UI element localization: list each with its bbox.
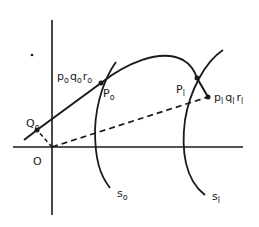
s0-label: so bbox=[117, 187, 128, 202]
s1-label: sl bbox=[212, 190, 220, 205]
s1-curve bbox=[184, 50, 223, 195]
point-P0 bbox=[99, 81, 104, 86]
p1q1r1-label: plqlrl bbox=[214, 91, 243, 106]
stray-dot-mark bbox=[31, 54, 34, 57]
point-P1 bbox=[195, 76, 200, 81]
p0q0r0-label: poqoro bbox=[57, 70, 92, 85]
P1-label: Pl bbox=[176, 83, 185, 98]
origin-label: O bbox=[33, 155, 42, 168]
P0-label: Po bbox=[103, 87, 115, 102]
s0-curve bbox=[95, 62, 116, 188]
point-p1 bbox=[206, 95, 211, 100]
dashed-O-to-Q0 bbox=[37, 130, 52, 147]
Q0-label: Qo bbox=[26, 117, 40, 132]
diagram-svg: O Qo Po poqoro Pl plqlrl so sl bbox=[0, 0, 259, 227]
diagram-canvas: O Qo Po poqoro Pl plqlrl so sl bbox=[0, 0, 259, 227]
